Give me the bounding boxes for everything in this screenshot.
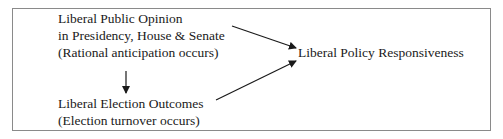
diagram-edges — [0, 0, 503, 139]
arrow-opinion-to-policy — [232, 26, 296, 48]
arrow-election-to-policy — [216, 61, 296, 100]
